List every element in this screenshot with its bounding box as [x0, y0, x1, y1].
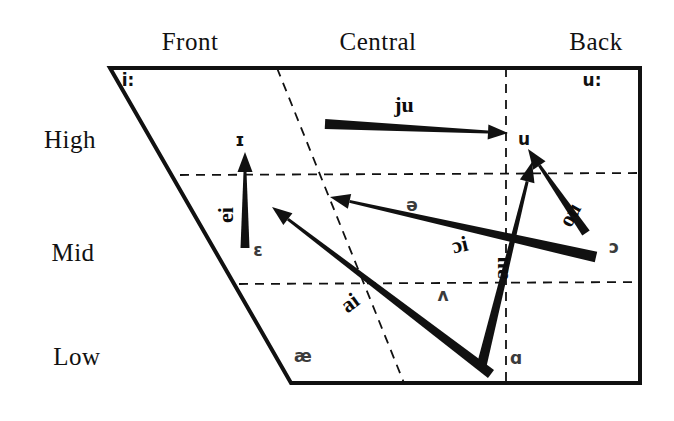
vowel-symbol-6: ɛ	[253, 240, 262, 260]
divider-high-mid-boundary	[180, 173, 640, 175]
vowel-diagram-figure: FrontCentralBack HighMidLow i:u:ɪuəɔɛʌæɑ…	[0, 0, 674, 421]
vowel-symbol-4: ə	[406, 195, 418, 215]
divider-mid-low-boundary	[239, 282, 640, 284]
vowel-quadrilateral-outline	[110, 68, 640, 383]
diphthong-label-ju: ju	[394, 92, 414, 118]
vowel-symbol-1: u:	[583, 70, 602, 90]
vowel-symbol-8: æ	[294, 346, 312, 366]
diphthong-arrows-group	[238, 119, 598, 378]
vowel-symbol-2: ɪ	[235, 130, 244, 150]
arrow-head-ei	[238, 152, 253, 172]
vowel-symbol-0: i:	[122, 70, 135, 90]
backness-label-central: Central	[339, 28, 416, 56]
arrow-body-ju	[325, 119, 488, 134]
arrow-head-au	[520, 162, 535, 183]
vowel-symbol-7: ʌ	[437, 285, 448, 305]
vowel-symbol-3: u	[518, 129, 530, 149]
vowel-symbol-9: ɑ	[510, 348, 522, 368]
arrow-head-ju	[488, 125, 508, 140]
quadrilateral-path	[110, 68, 640, 383]
arrow-head-ai	[272, 207, 292, 225]
height-label-high: High	[44, 126, 96, 154]
backness-label-front: Front	[162, 28, 219, 56]
vowel-symbol-5: ɔ	[609, 237, 619, 257]
diphthong-label-ei: ei	[213, 207, 239, 223]
height-label-low: Low	[53, 343, 100, 371]
backness-label-back: Back	[569, 28, 622, 56]
height-label-mid: Mid	[51, 239, 94, 267]
arrow-body-ei	[241, 172, 250, 248]
diphthong-label-au: au	[488, 256, 514, 279]
